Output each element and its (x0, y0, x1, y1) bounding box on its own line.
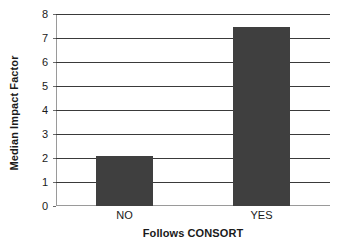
bar-chart: Median Impact Factor 012345678 NOYES Fol… (0, 0, 347, 246)
y-axis-tick-label: 3 (42, 129, 48, 139)
y-axis-title: Median Impact Factor (6, 13, 22, 213)
plot-area (56, 14, 330, 206)
y-axis-tick-label: 1 (42, 177, 48, 187)
y-axis-tick-mark (53, 134, 56, 135)
y-axis-tick-label: 2 (42, 153, 48, 163)
y-axis-tick-mark (53, 86, 56, 87)
x-axis-tick-label: NO (116, 209, 133, 222)
y-axis-tick-mark (53, 206, 56, 207)
bar-no (96, 156, 152, 206)
y-axis-tick-label: 6 (42, 57, 48, 67)
y-axis-tick-label: 0 (42, 201, 48, 211)
y-axis-tick-mark (53, 38, 56, 39)
y-axis-tick-label: 7 (42, 33, 48, 43)
x-axis-tick-label-group: NOYES (56, 209, 330, 223)
y-axis-tick-label-group: 012345678 (26, 14, 52, 206)
bar-yes (233, 27, 289, 206)
y-axis-tick-mark (53, 62, 56, 63)
y-axis-tick-mark (53, 158, 56, 159)
y-axis-tick-mark (53, 182, 56, 183)
y-axis-tick-label: 4 (42, 105, 48, 115)
x-axis-title: Follows CONSORT (56, 226, 330, 240)
grid-line (56, 14, 330, 15)
y-axis-tick-label: 5 (42, 81, 48, 91)
y-axis-tick-mark (53, 110, 56, 111)
y-axis-tick-label: 8 (42, 9, 48, 19)
y-axis-tick-mark (53, 14, 56, 15)
x-axis-tick-label: YES (250, 209, 272, 222)
